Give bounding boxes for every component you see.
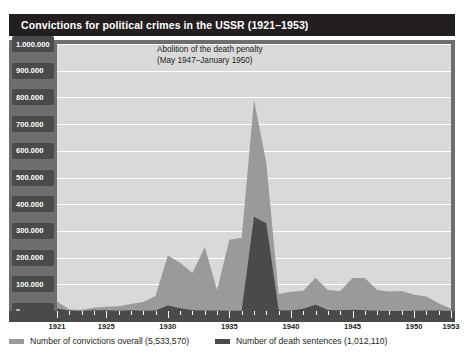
x-axis-tick-minor (377, 311, 378, 315)
y-axis-label: 300.000 (12, 223, 54, 239)
x-axis-tick-major (57, 311, 58, 318)
x-axis-label: 1921 (49, 322, 66, 331)
x-axis-tick-minor (94, 311, 95, 315)
x-axis-tick-minor (254, 311, 255, 315)
page-title: Convictions for political crimes in the … (9, 19, 308, 31)
x-axis-tick-minor (426, 311, 427, 315)
y-axis-label: 500.000 (12, 170, 54, 186)
x-axis-tick-minor (156, 311, 157, 315)
x-axis-tick-minor (242, 311, 243, 315)
plot-area: Abolition of the death penalty (May 1947… (57, 44, 451, 311)
x-axis-tick-major (451, 311, 452, 318)
x-axis-tick-minor (439, 311, 440, 315)
y-axis-labels: 1.000.000900.000800.000700.000600.000500… (9, 40, 57, 311)
chart-container: Convictions for political crimes in the … (0, 0, 464, 357)
x-axis-tick-minor (180, 311, 181, 315)
x-axis-tick-minor (217, 311, 218, 315)
x-axis-ticks (57, 311, 451, 322)
x-axis-label: 1940 (282, 322, 299, 331)
x-axis-tick-minor (279, 311, 280, 315)
x-axis-label: 1950 (406, 322, 423, 331)
x-axis-tick-major (291, 311, 292, 318)
chart-frame: 1.000.000900.000800.000700.000600.000500… (9, 40, 455, 322)
x-axis-tick-major (229, 311, 230, 318)
x-axis-tick-minor (192, 311, 193, 315)
legend-item-convictions-overall: Number of convictions overall (5,533,570… (9, 336, 189, 346)
x-axis-tick-minor (328, 311, 329, 315)
y-axis-label: 400.000 (12, 196, 54, 212)
y-axis-label: 200.000 (12, 250, 54, 266)
x-axis-tick-minor (119, 311, 120, 315)
x-axis-tick-minor (143, 311, 144, 315)
x-axis-tick-minor (69, 311, 70, 315)
x-axis-tick-minor (131, 311, 132, 315)
x-axis-label: 1935 (221, 322, 238, 331)
x-axis-tick-major (414, 311, 415, 318)
legend-swatch-convictions-overall (9, 339, 24, 344)
y-axis-label: 700.000 (12, 116, 54, 132)
x-axis-label: 1953 (443, 322, 460, 331)
x-axis-label: 1945 (344, 322, 361, 331)
x-axis-tick-minor (266, 311, 267, 315)
x-axis-tick-minor (389, 311, 390, 315)
legend-label: Number of convictions overall (5,533,570… (30, 336, 189, 346)
x-axis-tick-minor (82, 311, 83, 315)
x-axis-tick-minor (365, 311, 366, 315)
chart-legend: Number of convictions overall (5,533,570… (9, 333, 455, 349)
x-axis-label: 1930 (159, 322, 176, 331)
y-axis-label: 1.000.000 (12, 36, 54, 52)
x-axis-tick-minor (205, 311, 206, 315)
y-axis-label: 600.000 (12, 143, 54, 159)
legend-label: Number of death sentences (1,012,110) (236, 336, 387, 346)
x-axis-tick-minor (303, 311, 304, 315)
y-axis-label: 900.000 (12, 63, 54, 79)
legend-swatch-death-sentences (215, 339, 230, 344)
legend-item-death-sentences: Number of death sentences (1,012,110) (215, 336, 387, 346)
x-axis-tick-minor (402, 311, 403, 315)
x-axis-tick-minor (340, 311, 341, 315)
x-axis-tick-major (106, 311, 107, 318)
chart-title-bar: Convictions for political crimes in the … (9, 14, 455, 36)
x-axis-strip (9, 311, 455, 322)
x-axis-tick-major (353, 311, 354, 318)
y-axis-label: 100.000 (12, 276, 54, 292)
x-axis-tick-major (168, 311, 169, 318)
x-axis-tick-minor (316, 311, 317, 315)
x-axis-label: 1925 (98, 322, 115, 331)
y-axis-label: 800.000 (12, 89, 54, 105)
area-series-svg (57, 44, 451, 311)
